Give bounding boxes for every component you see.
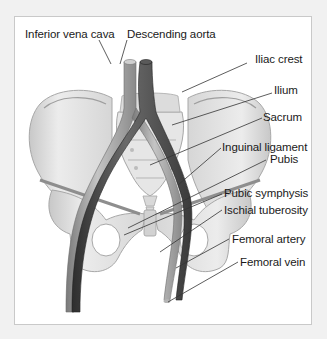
label-inferior-vena-cava: Inferior vena cava <box>25 28 115 41</box>
pubic-symphysis <box>144 210 156 236</box>
label-ilium: Ilium <box>274 84 298 97</box>
label-ischial-tuberosity: Ischial tuberosity <box>224 204 308 217</box>
label-pubic-symphysis: Pubic symphysis <box>224 187 308 200</box>
label-femoral-vein: Femoral vein <box>240 256 305 269</box>
label-descending-aorta: Descending aorta <box>127 28 216 41</box>
label-sacrum: Sacrum <box>263 111 302 124</box>
left-obturator-foramen <box>92 224 120 256</box>
label-femoral-artery: Femoral artery <box>232 233 305 246</box>
leader-iliac-crest <box>182 63 247 92</box>
label-pubis: Pubis <box>270 153 298 166</box>
leader-inferior-vena-cava <box>99 40 111 64</box>
pelvis-illustration <box>0 0 327 339</box>
label-iliac-crest: Iliac crest <box>255 53 302 66</box>
